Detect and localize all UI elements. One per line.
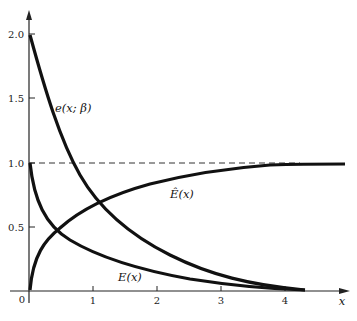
y-ticks: 0.5 1.0 1.5 2.0	[8, 29, 35, 233]
y-tick-label: 0.5	[8, 222, 24, 233]
x-tick-label: 3	[218, 295, 224, 306]
curve-E-hat-x	[30, 164, 345, 290]
x-tick-label: 1	[90, 295, 96, 306]
label-E-x: E(x)	[117, 270, 142, 284]
y-axis	[26, 10, 32, 303]
chart: 0.5 1.0 1.5 2.0 0 1 2 3 4 x e(x; β) E(x)…	[0, 0, 357, 321]
x-tick-label: 2	[154, 295, 160, 306]
label-e-x-beta: e(x; β)	[55, 101, 91, 115]
curve-E-x	[30, 163, 305, 290]
y-axis-arrow-icon	[26, 10, 32, 20]
y-tick-label: 1.5	[8, 93, 24, 104]
x-tick-label: 4	[282, 295, 288, 306]
x-axis-label: x	[339, 294, 346, 308]
y-tick-label: 1.0	[8, 158, 24, 169]
y-tick-label: 2.0	[8, 29, 24, 40]
label-E-hat-x: Ê(x)	[169, 187, 194, 201]
origin-label: 0	[19, 294, 25, 305]
